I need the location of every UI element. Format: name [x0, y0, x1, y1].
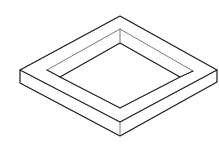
- outer-side-bottom: [20, 70, 217, 136]
- inner-left-stub: [47, 70, 60, 77]
- inner-right-stub: [180, 71, 193, 77]
- isometric-frame-drawing: [0, 0, 219, 144]
